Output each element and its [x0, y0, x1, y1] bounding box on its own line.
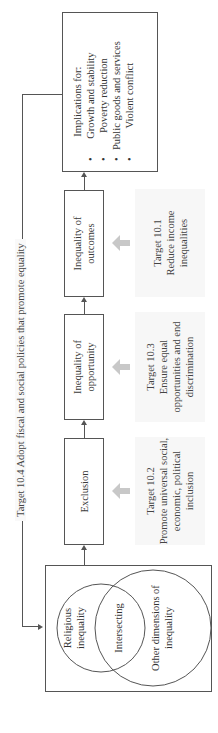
implications-content: Implications for: Growth and stability P… [71, 41, 136, 162]
arrowhead-icon [81, 297, 87, 302]
implications-heading: Implications for: [71, 41, 84, 162]
implication-item: Violent conflict [123, 41, 136, 150]
venn-label-religious: Religious inequality [61, 598, 87, 658]
arrow-exclusion-to-opportunity [84, 424, 85, 438]
implication-item: Poverty reduction [97, 41, 110, 150]
venn-label-other: Other dimensions of inequality [149, 580, 175, 676]
target-label: Target 10.2 [144, 467, 157, 514]
venn-box: Religious inequality Intersecting Other … [45, 565, 212, 692]
gray-up-arrow-icon [112, 483, 130, 499]
arrow-opportunity-to-outcomes [84, 301, 85, 314]
target-10-1: Target 10.1 Reduce income inequalities [135, 189, 205, 297]
arrow-outcomes-to-implications [84, 176, 85, 190]
target-text: Ensure equal opportunities and end discr… [157, 312, 196, 422]
target-10-2: Target 10.2 Promote universal social, ec… [135, 437, 205, 545]
feedback-line-into-venn [22, 626, 39, 627]
target-text: Promote universal social, economic, poli… [157, 437, 196, 545]
diagram-canvas: Target 10.4 Adopt fiscal and social poli… [0, 0, 218, 733]
box-implications: Implications for: Growth and stability P… [62, 12, 158, 172]
diagram-title: Target 10.4 Adopt fiscal and social poli… [15, 239, 26, 521]
arrow-venn-to-exclusion [84, 549, 85, 565]
target-10-3: Target 10.3 Ensure equal opportunities a… [135, 312, 205, 422]
target-label: Target 10.1 [151, 219, 164, 266]
implication-item: Public goods and services [110, 41, 123, 150]
box-outcomes: Inequality of outcomes [64, 190, 104, 297]
venn-label-intersecting: Intersecting [112, 585, 125, 671]
gray-up-arrow-icon [112, 235, 130, 251]
arrowhead-icon [81, 420, 87, 425]
arrowhead-icon [38, 624, 43, 630]
implication-item: Growth and stability [84, 41, 97, 150]
box-exclusion: Exclusion [64, 438, 104, 545]
target-text: Reduce income inequalities [164, 189, 190, 297]
arrowhead-icon [81, 172, 87, 177]
box-opportunity: Inequality of opportunity [64, 314, 104, 420]
arrowhead-icon [81, 545, 87, 550]
feedback-line-down [22, 94, 62, 95]
gray-up-arrow-icon [112, 359, 130, 375]
target-label: Target 10.3 [144, 343, 157, 390]
implications-list: Growth and stability Poverty reduction P… [84, 41, 136, 162]
